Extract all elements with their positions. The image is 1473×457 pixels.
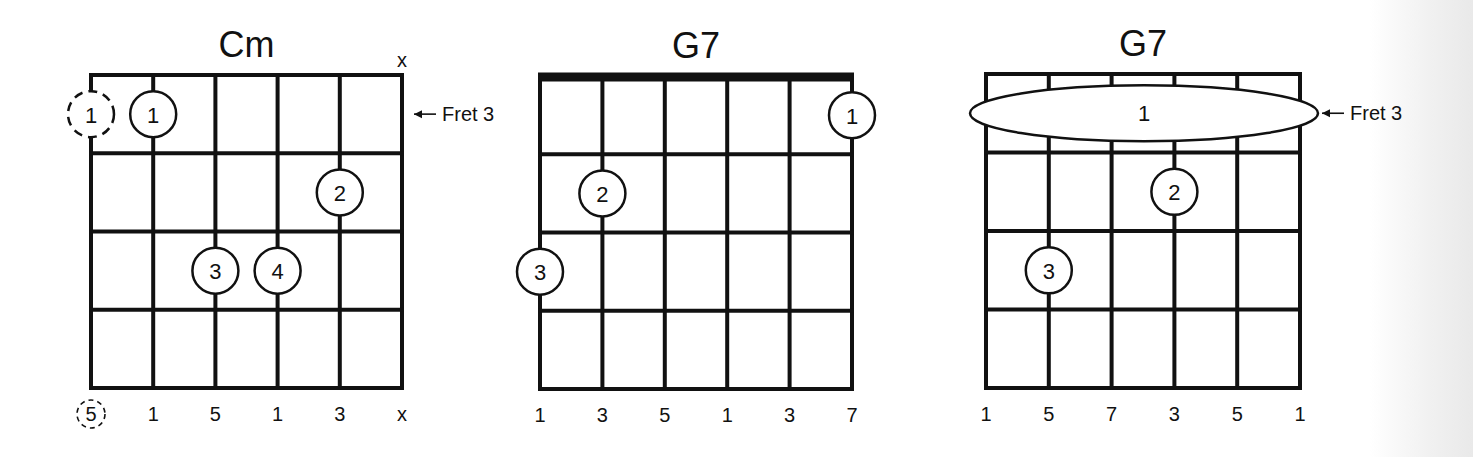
chord-name: G7	[1119, 23, 1167, 64]
scale-degree-label: 5	[1043, 403, 1054, 425]
arrow-head-icon	[1322, 109, 1330, 117]
finger-number: 3	[209, 259, 221, 284]
fret-position-label: Fret 3	[442, 103, 494, 125]
arrow-head-icon	[414, 110, 422, 118]
scale-degree-label: 1	[1294, 403, 1305, 425]
chord-diagrams: Cmx11234Fret 351513xG7123135137G7123Fret…	[0, 0, 1473, 457]
finger-number: 2	[596, 182, 608, 207]
scale-degree-label: 5	[1232, 403, 1243, 425]
scale-degree-label: 3	[784, 404, 795, 426]
scale-degree-label: 1	[722, 404, 733, 426]
scale-degree-label: x	[397, 403, 407, 425]
finger-number: 1	[147, 103, 159, 128]
scale-degree-label: 3	[1169, 403, 1180, 425]
finger-number: 4	[271, 259, 283, 284]
finger-number: 2	[334, 181, 346, 206]
scale-degree-label: 1	[148, 403, 159, 425]
scale-degree-label: 3	[334, 403, 345, 425]
finger-number: 3	[1043, 259, 1055, 284]
chord-name: Cm	[219, 24, 275, 65]
scale-degree-label: 1	[272, 403, 283, 425]
muted-string-marker: x	[397, 49, 407, 71]
finger-number: 1	[85, 103, 97, 128]
barre-finger-number: 1	[1138, 101, 1150, 126]
finger-number: 1	[846, 104, 858, 129]
chord-diagram-2: G7123135137	[517, 25, 875, 426]
scale-degree-label: 1	[980, 403, 991, 425]
scale-degree-label: 1	[534, 404, 545, 426]
chord-name: G7	[672, 25, 720, 66]
chord-sheet: Cmx11234Fret 351513xG7123135137G7123Fret…	[0, 0, 1473, 457]
scale-degree-label: 5	[85, 403, 96, 425]
finger-number: 3	[534, 260, 546, 285]
scale-degree-label: 7	[1106, 403, 1117, 425]
scale-degree-label: 5	[210, 403, 221, 425]
scale-degree-label: 5	[659, 404, 670, 426]
finger-number: 2	[1168, 180, 1180, 205]
chord-diagram-1: Cmx11234Fret 351513x	[68, 24, 494, 428]
fret-position-label: Fret 3	[1350, 102, 1402, 124]
chord-diagram-3: G7123Fret 3157351	[970, 23, 1402, 425]
scale-degree-label: 3	[597, 404, 608, 426]
scale-degree-label: 7	[846, 404, 857, 426]
